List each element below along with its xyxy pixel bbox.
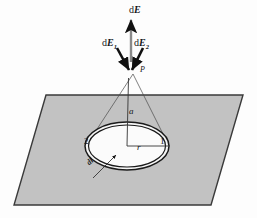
label-element-2: 2: [84, 137, 89, 146]
label-dE1-vector: E: [107, 37, 114, 48]
label-radius-r: r: [137, 143, 141, 152]
vector-dE1: [117, 48, 129, 70]
label-point-P: P: [140, 66, 145, 74]
label-dE2: dE2: [134, 38, 149, 51]
label-dE2-vector: E: [139, 37, 146, 48]
label-dE-vector: E: [134, 4, 141, 15]
label-element-1: 1: [160, 137, 165, 146]
label-dE2-subscript: 2: [146, 43, 149, 50]
label-dE1: dE1: [102, 38, 117, 51]
physics-diagram-ring-field: dE dE1 dE2 P a r 1 2 dl: [0, 0, 257, 218]
label-dE-total: dE: [129, 5, 141, 15]
label-distance-a: a: [129, 107, 134, 116]
label-dE1-subscript: 1: [114, 43, 117, 50]
